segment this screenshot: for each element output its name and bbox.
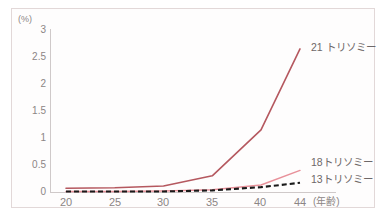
line-trisomy21	[66, 49, 300, 188]
series-label-trisomy18: 18トリソミー	[311, 157, 373, 168]
chart-figure: (%) 3 2.5 2 1.5 1 0.5 0 20 25 30 35 40 4…	[0, 0, 388, 222]
series-lines	[0, 0, 388, 222]
series-label-trisomy13: 13トリソミー	[311, 174, 373, 185]
series-label-trisomy21: 21 トリソミー	[311, 42, 376, 53]
plot-area: (%) 3 2.5 2 1.5 1 0.5 0 20 25 30 35 40 4…	[0, 0, 388, 222]
